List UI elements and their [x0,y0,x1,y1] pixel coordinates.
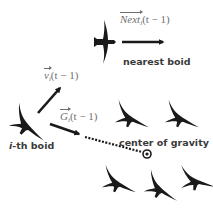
gravity-vector-label: Gi(t − 1) [60,111,98,124]
nearest-boid-label: nearest boid [123,57,191,67]
velocity-vector-label: vi(t − 1) [44,70,78,83]
flock-bird-icon [102,165,136,193]
nearest-boid-bird-icon [94,20,116,64]
next-vector-label: Nexti(t − 1) [120,14,170,27]
flock-bird-icon [115,100,149,128]
center-of-gravity-label: center of gravity [119,138,209,148]
velocity-vector-arrow [38,88,60,113]
boid-diagram [0,0,213,217]
ith-boid-bird-icon [7,101,51,140]
flock-bird-icon [165,100,199,128]
center-of-gravity-marker-icon [143,150,151,158]
ith-boid-label: i-th boid [9,141,54,151]
flock-bird-icon [143,169,181,201]
flock-bird-icon [177,160,213,193]
gravity-vector-arrow [50,124,79,134]
